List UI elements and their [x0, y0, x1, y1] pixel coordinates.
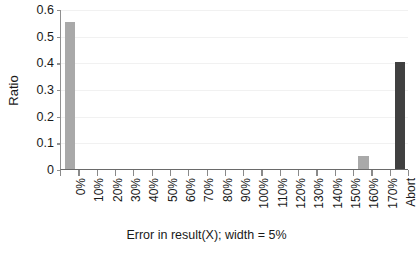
- x-axis-tick: [390, 170, 391, 176]
- x-axis-tick: [115, 170, 116, 176]
- x-axis-tick-label: 80%: [221, 178, 235, 202]
- x-axis-tick: [353, 170, 354, 176]
- x-axis-title-label: Error in result(X); width = 5%: [126, 228, 286, 242]
- x-axis-tick-label: 90%: [239, 178, 253, 202]
- bar: [395, 62, 406, 169]
- x-axis-tick: [408, 170, 409, 176]
- y-axis-tick-label: 0.4: [37, 56, 54, 70]
- x-axis-tick-label: 160%: [367, 178, 381, 209]
- x-axis-tick-label: 0%: [74, 178, 88, 195]
- x-axis-tick: [170, 170, 171, 176]
- x-axis-tick: [280, 170, 281, 176]
- x-axis-tick-label: 30%: [129, 178, 143, 202]
- x-axis-tick-label: 50%: [166, 178, 180, 202]
- y-axis-tick-label: 0.3: [37, 83, 54, 97]
- x-axis-tick-label: 170%: [386, 178, 400, 209]
- x-axis-tick-label: 140%: [331, 178, 345, 209]
- x-axis-tick-label: 20%: [111, 178, 125, 202]
- x-axis-tick-label: 100%: [257, 178, 271, 209]
- x-axis-tick: [78, 170, 79, 176]
- x-axis-tick: [261, 170, 262, 176]
- x-axis-ticks: [60, 170, 408, 177]
- y-axis-title: Ratio: [2, 0, 24, 180]
- x-axis-tick: [316, 170, 317, 176]
- x-axis-tick: [152, 170, 153, 176]
- x-axis-tick-label: 70%: [202, 178, 216, 202]
- y-axis-tick-labels: 00.10.20.30.40.50.6: [24, 10, 54, 170]
- x-axis-tick-labels: 0%10%20%30%40%50%60%70%80%90%100%110%120…: [60, 178, 408, 224]
- y-axis-tick-label: 0.5: [37, 30, 54, 44]
- x-axis-tick-label: 110%: [276, 178, 290, 208]
- bars-layer: [61, 10, 408, 169]
- x-axis-tick-label: 10%: [92, 178, 106, 202]
- x-axis-tick: [207, 170, 208, 176]
- x-axis-tick: [371, 170, 372, 176]
- bar: [358, 156, 369, 169]
- x-axis-tick: [243, 170, 244, 176]
- x-axis-tick-label: 60%: [184, 178, 198, 202]
- x-axis-tick: [133, 170, 134, 176]
- bar: [65, 22, 76, 169]
- x-axis-tick: [225, 170, 226, 176]
- x-axis-title: Error in result(X); width = 5%: [0, 228, 413, 242]
- y-axis-tick-label: 0.2: [37, 110, 54, 124]
- x-axis-tick: [60, 170, 61, 176]
- y-axis-tick-label: 0.1: [37, 136, 54, 150]
- plot-area: [60, 10, 408, 170]
- x-axis-tick-label: 130%: [312, 178, 326, 209]
- x-axis-tick: [188, 170, 189, 176]
- x-axis-tick-label: Abort: [404, 178, 418, 207]
- x-axis-tick-label: 150%: [349, 178, 363, 209]
- y-axis-tick-label: 0.6: [37, 3, 54, 17]
- y-axis-tick-label: 0: [47, 163, 54, 177]
- x-axis-tick: [97, 170, 98, 176]
- x-axis-tick-label: 120%: [294, 178, 308, 209]
- x-axis-tick-label: 40%: [147, 178, 161, 202]
- x-axis-tick: [335, 170, 336, 176]
- y-axis-title-label: Ratio: [6, 75, 21, 105]
- x-axis-tick: [298, 170, 299, 176]
